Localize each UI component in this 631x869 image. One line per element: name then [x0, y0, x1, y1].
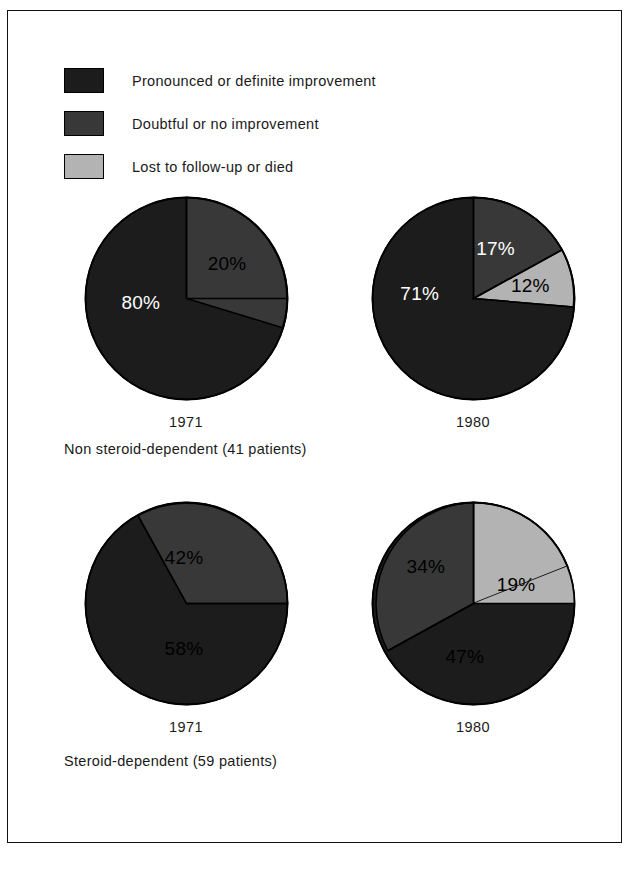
pie-chart-steroid-1971: 42% 58% — [84, 501, 289, 706]
legend-swatch-pronounced — [64, 68, 104, 93]
group-caption-non-steroid-dependent: Non steroid-dependent (41 patients) — [64, 441, 307, 457]
pie-svg — [84, 196, 289, 401]
group-caption-steroid-dependent: Steroid-dependent (59 patients) — [64, 753, 277, 769]
pie-slice-label: 42% — [165, 547, 204, 569]
legend-swatch-doubtful — [64, 111, 104, 136]
legend-label-pronounced: Pronounced or definite improvement — [132, 73, 376, 89]
pie-slice-label: 34% — [407, 556, 446, 578]
pie-slice-label: 47% — [445, 646, 484, 668]
pie-slice-label: 19% — [497, 574, 536, 596]
pie-slice-label: 20% — [208, 253, 247, 275]
pie-slice-label: 17% — [476, 238, 515, 260]
legend-label-doubtful: Doubtful or no improvement — [132, 116, 319, 132]
pie-year-label: 1971 — [71, 719, 301, 735]
legend: Pronounced or definite improvement Doubt… — [64, 59, 484, 188]
pie-panel-steroid-1980: 34% 19% 47% 1980 — [358, 501, 588, 735]
pie-slice-label: 58% — [165, 638, 204, 660]
pie-year-label: 1971 — [71, 414, 301, 430]
legend-item-pronounced: Pronounced or definite improvement — [64, 59, 484, 102]
pie-chart-non-steroid-1980: 71% 17% 12% — [371, 196, 576, 401]
pie-svg — [371, 501, 576, 706]
legend-swatch-lost — [64, 154, 104, 179]
legend-item-lost: Lost to follow-up or died — [64, 145, 484, 188]
pie-year-label: 1980 — [358, 719, 588, 735]
pie-slice-label: 12% — [511, 275, 550, 297]
pie-chart-non-steroid-1971: 80% 20% — [84, 196, 289, 401]
pie-panel-non-steroid-1971: 80% 20% 1971 — [71, 196, 301, 430]
pie-slice-label: 80% — [122, 292, 161, 314]
legend-item-doubtful: Doubtful or no improvement — [64, 102, 484, 145]
pie-svg — [84, 501, 289, 706]
figure-frame: Pronounced or definite improvement Doubt… — [7, 10, 622, 843]
pie-panel-steroid-1971: 42% 58% 1971 — [71, 501, 301, 735]
pie-year-label: 1980 — [358, 414, 588, 430]
pie-panel-non-steroid-1980: 71% 17% 12% 1980 — [358, 196, 588, 430]
pie-chart-steroid-1980: 34% 19% 47% — [371, 501, 576, 706]
legend-label-lost: Lost to follow-up or died — [132, 159, 293, 175]
pie-slice-label: 71% — [400, 283, 439, 305]
